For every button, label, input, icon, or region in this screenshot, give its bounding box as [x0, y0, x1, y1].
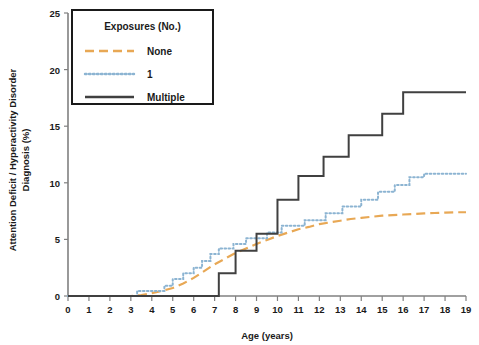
y-axis-title-line2: Diagnosis (%) [20, 129, 31, 192]
chart-svg: 0123456789101112131415161718190510152025… [0, 0, 479, 345]
x-tick-label: 9 [254, 304, 259, 315]
x-tick-label: 7 [212, 304, 217, 315]
x-tick-label: 16 [398, 304, 409, 315]
y-tick-label: 5 [55, 234, 61, 245]
chart-figure: 0123456789101112131415161718190510152025… [0, 0, 479, 345]
x-tick-label: 1 [86, 304, 92, 315]
y-tick-label: 10 [49, 178, 60, 189]
y-axis-title-line1: Attention Deficit / Hyperactivity Disord… [7, 68, 18, 251]
x-tick-label: 15 [377, 304, 388, 315]
x-tick-label: 18 [440, 304, 451, 315]
x-axis-title: Age (years) [241, 330, 293, 341]
x-tick-label: 5 [170, 304, 176, 315]
chart-legend: Exposures (No.)None1Multiple [72, 10, 213, 104]
legend-title: Exposures (No.) [104, 21, 181, 32]
x-tick-label: 13 [335, 304, 346, 315]
x-tick-label: 0 [65, 304, 70, 315]
x-tick-label: 19 [461, 304, 472, 315]
y-tick-label: 0 [55, 291, 60, 302]
y-tick-label: 25 [49, 8, 60, 19]
x-tick-label: 17 [419, 304, 430, 315]
x-tick-label: 8 [233, 304, 238, 315]
x-tick-label: 14 [356, 304, 367, 315]
legend-label-none: None [147, 46, 172, 57]
x-tick-label: 12 [314, 304, 325, 315]
x-tick-label: 4 [149, 304, 155, 315]
y-tick-label: 15 [49, 121, 60, 132]
x-tick-label: 2 [107, 304, 112, 315]
legend-label-1: 1 [147, 69, 153, 80]
x-tick-label: 3 [128, 304, 133, 315]
legend-label-multiple: Multiple [147, 92, 185, 103]
y-tick-label: 20 [49, 65, 60, 76]
x-tick-label: 10 [272, 304, 283, 315]
x-tick-label: 11 [293, 304, 304, 315]
x-tick-label: 6 [191, 304, 196, 315]
